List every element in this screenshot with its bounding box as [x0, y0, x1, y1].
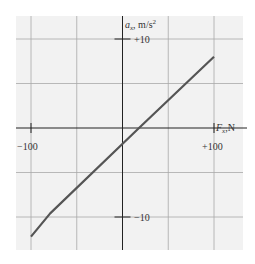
y-tick-label-pos: +10 — [134, 34, 150, 45]
y-tick-label-neg: −10 — [134, 212, 150, 223]
y-axis-label: ax, m/s2 — [125, 18, 157, 32]
chart: ax, m/s2 +10 −10 Fx,N −100 +100 — [0, 0, 255, 264]
x-tick-label-pos: +100 — [202, 141, 223, 152]
x-tick-label-neg: −100 — [17, 141, 38, 152]
